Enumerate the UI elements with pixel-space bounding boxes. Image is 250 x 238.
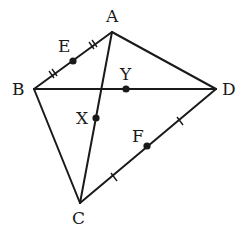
label-a: A xyxy=(105,6,119,26)
label-y: Y xyxy=(119,64,132,84)
segment-bc xyxy=(34,89,80,203)
point-e xyxy=(69,57,76,64)
label-b: B xyxy=(12,79,25,99)
point-f xyxy=(143,142,150,149)
point-x xyxy=(92,114,99,121)
label-c: C xyxy=(72,208,85,228)
point-y xyxy=(122,85,129,92)
geometry-diagram: A B C D E X Y F xyxy=(0,0,250,238)
label-e: E xyxy=(58,36,70,56)
label-x: X xyxy=(76,108,89,128)
label-d: D xyxy=(222,79,236,99)
label-f: F xyxy=(132,126,144,146)
